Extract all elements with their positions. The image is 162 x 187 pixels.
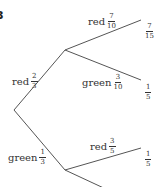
label-green-red: red 3 5 [90,138,116,155]
numerator: 7 [108,13,114,22]
numerator: 7 [146,23,152,32]
outcome-green-red: 1 5 [143,141,151,168]
numerator: 3 [115,74,121,83]
branch-color: green [8,153,37,163]
numerator: 1 [145,84,151,93]
label-red-first: red 2 3 [12,73,38,90]
fraction: 7 15 [145,23,154,40]
fraction: 1 5 [145,151,151,168]
numerator: 1 [39,149,45,158]
denominator: 5 [146,160,150,168]
denominator: 10 [107,22,116,30]
fraction: 3 10 [113,74,122,91]
fraction: 1 3 [39,149,45,166]
denominator: 10 [113,83,122,91]
branch-color: red [12,77,29,87]
branch-green-green [65,170,108,187]
outcome-red-red: 7 15 [143,13,154,40]
numerator: 3 [109,138,115,147]
branch-color: green [82,78,111,88]
fraction: 2 3 [31,73,37,90]
numerator: 2 [31,73,37,82]
label-red-green: green 3 10 [82,74,122,91]
fraction: 1 5 [145,84,151,101]
denominator: 3 [32,82,36,90]
label-red-red: red 7 10 [88,13,116,30]
fraction: 3 5 [109,138,115,155]
branch-color: red [90,142,107,152]
denominator: 5 [110,147,114,155]
outcome-red-green: 1 5 [143,74,151,101]
denominator: 3 [40,158,44,166]
branch-color: red [88,17,105,27]
numerator: 1 [145,151,151,160]
denominator: 15 [145,32,154,40]
fraction: 7 10 [107,13,116,30]
label-green-first: green 1 3 [8,149,46,166]
denominator: 5 [146,93,150,101]
